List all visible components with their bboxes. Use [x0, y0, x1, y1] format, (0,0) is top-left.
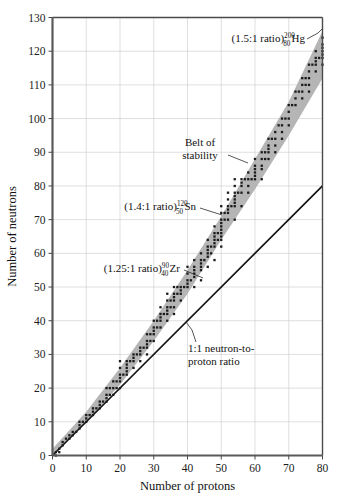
belt-of-stability-annotation-label: Belt ofstability: [182, 136, 218, 161]
nuclide-point: [315, 50, 317, 52]
nuclide-point: [308, 70, 310, 72]
y-tick-label: 80: [34, 180, 46, 192]
nuclide-point: [247, 171, 249, 173]
nuclide-point: [159, 316, 161, 318]
nuclide-point: [234, 205, 236, 207]
nuclide-point: [274, 138, 276, 140]
nuclide-point: [88, 414, 90, 416]
nuclide-point: [264, 151, 266, 153]
nuclide-point: [254, 168, 256, 170]
nuclide-point: [301, 84, 303, 86]
nuclide-point: [102, 400, 104, 402]
nuclide-point: [220, 239, 222, 241]
nuclide-point: [220, 205, 222, 207]
nuclide-point: [58, 448, 60, 450]
nuclide-point: [250, 178, 252, 180]
y-axis-title: Number of neutrons: [5, 186, 19, 287]
nuclide-point: [183, 286, 185, 288]
nuclide-point: [193, 266, 195, 268]
y-tick-label: 120: [28, 45, 46, 57]
x-axis-title: Number of protons: [140, 479, 235, 493]
nuclide-point: [223, 212, 225, 214]
nuclide-point: [146, 333, 148, 335]
nuclide-point: [153, 333, 155, 335]
nuclide-point: [203, 259, 205, 261]
nuclide-point: [58, 451, 60, 453]
nuclide-point: [119, 367, 121, 369]
nuclide-point: [166, 293, 168, 295]
nuclide-point: [126, 363, 128, 365]
nuclide-point: [193, 259, 195, 261]
nuclide-point: [190, 279, 192, 281]
nuclide-point: [153, 340, 155, 342]
nuclide-point: [261, 178, 263, 180]
nuclide-point: [274, 151, 276, 153]
nuclide-point: [271, 138, 273, 140]
x-tick-label: 50: [216, 462, 228, 474]
nuclide-point: [213, 235, 215, 237]
nuclide-point: [281, 138, 283, 140]
nuclide-point: [173, 286, 175, 288]
nuclide-point: [301, 77, 303, 79]
nuclide-point: [85, 417, 87, 419]
nuclide-point: [308, 77, 310, 79]
nuclide-point: [153, 326, 155, 328]
nuclide-point: [119, 380, 121, 382]
nuclide-point: [301, 90, 303, 92]
nuclide-point: [264, 158, 266, 160]
nuclide-point: [186, 272, 188, 274]
nuclide-point: [92, 414, 94, 416]
nuclide-point: [240, 181, 242, 183]
nuclide-point: [210, 245, 212, 247]
nuclide-point: [294, 97, 296, 99]
nuclide-point: [166, 306, 168, 308]
nuclide-point: [213, 239, 215, 241]
nuclide-point: [217, 239, 219, 241]
nuclide-point: [173, 293, 175, 295]
nuclide-point: [78, 421, 80, 423]
nuclide-point: [126, 360, 128, 362]
nuclide-point: [234, 198, 236, 200]
nuclide-point: [220, 245, 222, 247]
nuclide-point: [308, 90, 310, 92]
nuclide-point: [132, 360, 134, 362]
nuclide-point: [153, 330, 155, 332]
nuclide-point: [159, 326, 161, 328]
nuclide-point: [207, 245, 209, 247]
x-tick-label: 30: [148, 462, 160, 474]
y-tick-label: 30: [34, 348, 46, 360]
nuclide-point: [112, 380, 114, 382]
nuclide-point: [149, 333, 151, 335]
nuclide-point: [267, 158, 269, 160]
nuclide-point: [254, 171, 256, 173]
nuclide-point: [119, 387, 121, 389]
nuclide-point: [136, 353, 138, 355]
nuclide-point: [207, 239, 209, 241]
nuclide-point: [85, 421, 87, 423]
nuclide-point: [267, 151, 269, 153]
y-tick-label: 50: [34, 281, 46, 293]
nuclide-point: [227, 198, 229, 200]
nuclide-point: [288, 117, 290, 119]
x-tick-label: 10: [81, 462, 93, 474]
nuclide-point: [176, 293, 178, 295]
nuclide-point: [126, 370, 128, 372]
nuclide-point: [173, 296, 175, 298]
nuclide-point: [207, 252, 209, 254]
nuclide-point: [288, 111, 290, 113]
nuclide-point: [159, 313, 161, 315]
nuclide-point: [156, 320, 158, 322]
nuclide-point: [288, 104, 290, 106]
nuclide-point: [109, 387, 111, 389]
nuclide-point: [301, 97, 303, 99]
nuclide-point: [244, 178, 246, 180]
nuclide-point: [129, 360, 131, 362]
nuclide-point: [267, 148, 269, 150]
nuclide-point: [200, 262, 202, 264]
nuclide-point: [92, 407, 94, 409]
nuclide-point: [281, 131, 283, 133]
nuclide-point: [227, 192, 229, 194]
nuclide-point: [99, 400, 101, 402]
x-tick-label: 40: [182, 462, 194, 474]
nuclide-point: [281, 117, 283, 119]
